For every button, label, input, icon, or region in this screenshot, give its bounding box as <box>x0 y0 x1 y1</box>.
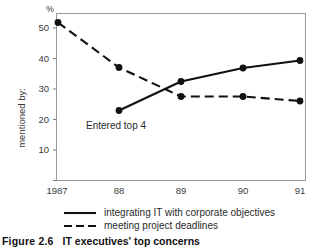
series-markers-meeting-project-deadlines <box>55 19 304 104</box>
y-tick-label-20: 20 <box>38 114 49 125</box>
figure-caption: Figure 2.6IT executives' top concerns <box>2 235 200 247</box>
line-chart: 10 20 30 40 50 % mentioned by: 1987 88 8… <box>0 0 323 212</box>
legend-item-integrating-it: integrating IT with corporate objectives <box>63 206 323 219</box>
legend-item-meeting-project-deadlines: meeting project deadlines <box>63 219 323 232</box>
series-line-meeting-project-deadlines <box>58 23 300 102</box>
y-tick-label-10: 10 <box>38 144 49 155</box>
x-tick-label-1987: 1987 <box>46 185 67 196</box>
y-axis-ticks <box>53 28 57 181</box>
y-axis-unit-label: % <box>46 4 54 14</box>
figure-caption-number: Figure 2.6 <box>2 235 54 247</box>
annotation-entered-top-4: Entered top 4 <box>86 120 146 131</box>
legend-solid-line-icon <box>63 208 97 218</box>
y-axis-title: mentioned by: <box>16 88 27 148</box>
x-tick-label-89: 89 <box>176 185 187 196</box>
y-tick-label-40: 40 <box>38 53 49 64</box>
series-markers-integrating-it <box>116 57 304 114</box>
series-line-integrating-it <box>119 61 300 111</box>
legend-dashed-line-icon <box>63 221 97 231</box>
legend-label-meeting-project-deadlines: meeting project deadlines <box>97 219 218 232</box>
figure-container: 10 20 30 40 50 % mentioned by: 1987 88 8… <box>0 0 323 251</box>
x-tick-label-88: 88 <box>114 185 125 196</box>
y-tick-label-50: 50 <box>38 22 49 33</box>
legend-label-integrating-it: integrating IT with corporate objectives <box>97 206 275 219</box>
figure-caption-title: IT executives' top concerns <box>54 235 200 247</box>
chart-legend: integrating IT with corporate objectives… <box>63 206 323 232</box>
y-tick-label-30: 30 <box>38 83 49 94</box>
x-tick-label-91: 91 <box>295 185 306 196</box>
x-tick-label-90: 90 <box>238 185 249 196</box>
